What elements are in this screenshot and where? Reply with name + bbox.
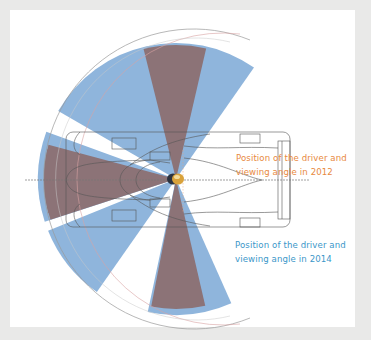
label-2012: Position of the driver and viewing angle…: [236, 151, 347, 179]
label-2012-line2: viewing angle in 2012: [236, 165, 347, 179]
car-rear-body-bottom: [184, 212, 278, 214]
viewing-sectors: [38, 43, 254, 315]
car-side-pod-top-right: [240, 134, 260, 143]
label-2014-line1: Position of the driver and: [235, 238, 346, 252]
driver-helmet: [167, 174, 184, 185]
car-side-pod-bottom-right: [240, 218, 260, 227]
driver-helmet-highlight: [174, 175, 180, 179]
label-2012-line1: Position of the driver and: [236, 151, 347, 165]
label-2014-line2: viewing angle in 2014: [235, 252, 346, 266]
label-2014: Position of the driver and viewing angle…: [235, 238, 346, 266]
